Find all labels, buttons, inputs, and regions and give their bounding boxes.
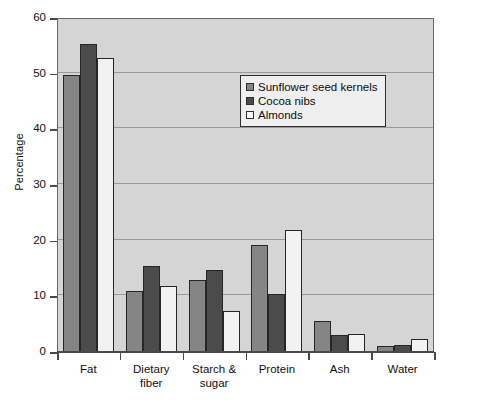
y-tick-mark (50, 18, 57, 20)
y-tick-label: 50 (2, 67, 46, 79)
y-tick-label: 0 (2, 345, 46, 357)
x-tick-mark (183, 352, 185, 360)
bar (223, 311, 240, 352)
x-tick-label: Water (364, 362, 442, 376)
bar-group (63, 18, 114, 352)
y-tick-label: 10 (2, 289, 46, 301)
bar (314, 321, 331, 352)
legend-label: Almonds (258, 109, 303, 121)
bar-group (377, 18, 428, 352)
x-tick-mark (246, 352, 248, 360)
legend-item[interactable]: Sunflower seed kernels (246, 80, 378, 94)
y-tick-mark (50, 74, 57, 76)
y-tick-label: 30 (2, 178, 46, 190)
y-tick-mark (50, 129, 57, 131)
x-tick-label-line: sugar (175, 376, 253, 390)
legend-item[interactable]: Cocoa nibs (246, 94, 378, 108)
x-tick-mark (308, 352, 310, 360)
bar (160, 286, 177, 352)
bar (143, 266, 160, 352)
legend-swatch-icon (246, 111, 254, 119)
legend-swatch-icon (246, 83, 254, 91)
y-tick-mark (50, 352, 57, 354)
legend: Sunflower seed kernelsCocoa nibsAlmonds (240, 75, 386, 127)
bars-layer (57, 18, 434, 352)
bar (97, 58, 114, 352)
y-tick-label: 20 (2, 234, 46, 246)
y-tick-mark (50, 185, 57, 187)
legend-label: Sunflower seed kernels (258, 81, 378, 93)
y-tick-mark (50, 296, 57, 298)
x-tick-mark (371, 352, 373, 360)
y-tick-label: 40 (2, 122, 46, 134)
x-tick-mark (120, 352, 122, 360)
bar (268, 294, 285, 352)
bar (80, 44, 97, 352)
bar (189, 280, 206, 352)
bar (63, 75, 80, 352)
bar-group (126, 18, 177, 352)
x-tick-label-line: Water (364, 362, 442, 376)
bar-group (314, 18, 365, 352)
x-tick-mark (57, 352, 59, 360)
bar (285, 230, 302, 352)
bar (251, 245, 268, 352)
legend-label: Cocoa nibs (258, 95, 316, 107)
y-tick-mark (50, 241, 57, 243)
bar-group (251, 18, 302, 352)
legend-swatch-icon (246, 97, 254, 105)
x-tick-mark (434, 352, 436, 360)
bar (126, 291, 143, 352)
bar (348, 334, 365, 352)
bar (411, 339, 428, 352)
bar (206, 270, 223, 352)
bar (331, 335, 348, 352)
y-tick-label: 60 (2, 11, 46, 23)
legend-item[interactable]: Almonds (246, 108, 378, 122)
bar-chart: Percentage 0102030405060 FatDietaryfiber… (0, 0, 481, 408)
bar-group (189, 18, 240, 352)
